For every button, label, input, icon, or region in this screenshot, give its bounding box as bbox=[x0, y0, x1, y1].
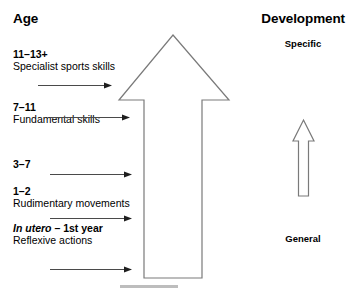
age-range-label: In utero – 1st year bbox=[13, 222, 103, 234]
figure-caption-strip bbox=[0, 285, 358, 301]
progression-arrow-icon bbox=[38, 81, 112, 90]
age-description-label: Reflexive actions bbox=[13, 234, 103, 246]
development-up-arrow-icon bbox=[288, 117, 320, 199]
page-title-development: Development bbox=[261, 12, 345, 26]
age-range-label: 3–7 bbox=[13, 158, 31, 170]
age-description-label: Fundamental skills bbox=[13, 113, 100, 125]
age-development-diagram: Age Development Specific General 11–13+ … bbox=[0, 0, 358, 301]
age-range-label: 11–13+ bbox=[13, 48, 115, 60]
caption-rule bbox=[120, 285, 178, 288]
age-group-item: 1–2 Rudimentary movements bbox=[13, 185, 130, 210]
age-range-italic-part: In utero bbox=[13, 222, 52, 234]
age-range-label: 1–2 bbox=[13, 185, 130, 197]
age-range-label: 7–11 bbox=[13, 101, 100, 113]
age-group-item: 11–13+ Specialist sports skills bbox=[13, 48, 115, 73]
age-range-suffix: – 1st year bbox=[54, 222, 102, 234]
central-up-arrow-icon bbox=[116, 32, 234, 282]
age-group-item: 3–7 bbox=[13, 158, 31, 170]
age-description-label: Specialist sports skills bbox=[13, 60, 115, 72]
age-description-label: Rudimentary movements bbox=[13, 197, 130, 209]
page-title-age: Age bbox=[13, 12, 38, 26]
development-label-general: General bbox=[285, 234, 320, 244]
age-group-item: 7–11 Fundamental skills bbox=[13, 101, 100, 126]
age-group-item: In utero – 1st year Reflexive actions bbox=[13, 222, 103, 247]
development-label-specific: Specific bbox=[285, 39, 321, 49]
